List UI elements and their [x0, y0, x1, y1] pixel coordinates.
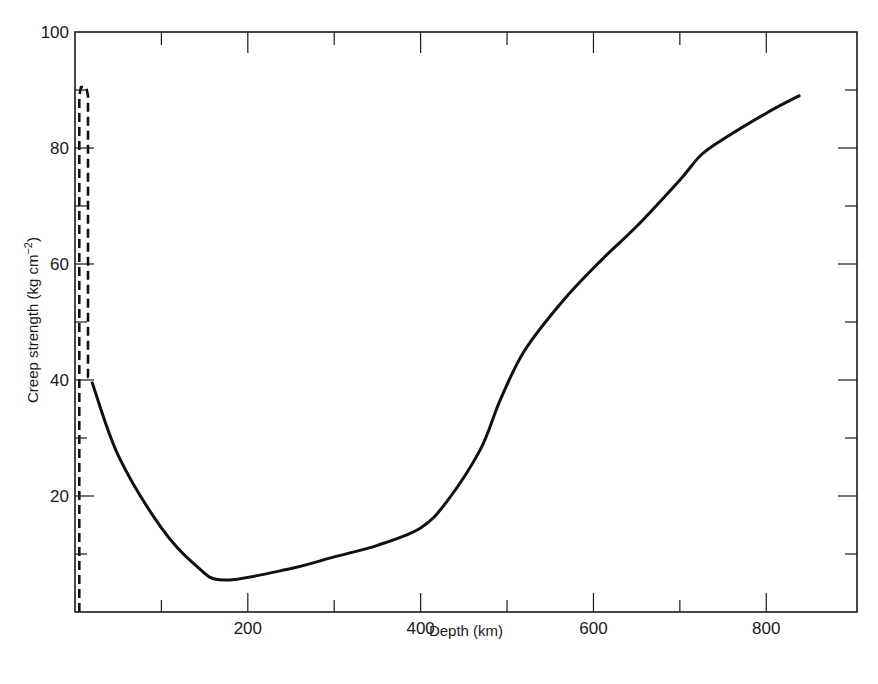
- x-tick-label: 200: [234, 619, 262, 638]
- x-tick-label: 600: [579, 619, 607, 638]
- dashed-curve: [79, 87, 92, 612]
- creep-strength-chart: 20040060080020406080100 Depth (km) Creep…: [0, 0, 878, 684]
- plot-border: [75, 32, 857, 612]
- y-axis-label: Creep strength (kg cm−2): [22, 237, 41, 403]
- y-axis-label-close: ): [24, 237, 41, 242]
- axis-ticks: [75, 32, 857, 612]
- y-axis-label-main: Creep strength (kg cm: [24, 255, 41, 403]
- y-tick-label: 60: [50, 255, 69, 274]
- data-series: [79, 87, 799, 612]
- y-axis-label-superscript: −2: [22, 242, 34, 255]
- x-axis-label: Depth (km): [429, 622, 503, 639]
- plot-frame: [75, 32, 857, 612]
- y-tick-label: 40: [50, 371, 69, 390]
- y-tick-label: 80: [50, 139, 69, 158]
- y-tick-label: 100: [41, 23, 69, 42]
- y-tick-label: 20: [50, 487, 69, 506]
- x-tick-label: 800: [752, 619, 780, 638]
- axis-tick-labels: 20040060080020406080100: [41, 23, 781, 638]
- solid-curve: [92, 96, 799, 580]
